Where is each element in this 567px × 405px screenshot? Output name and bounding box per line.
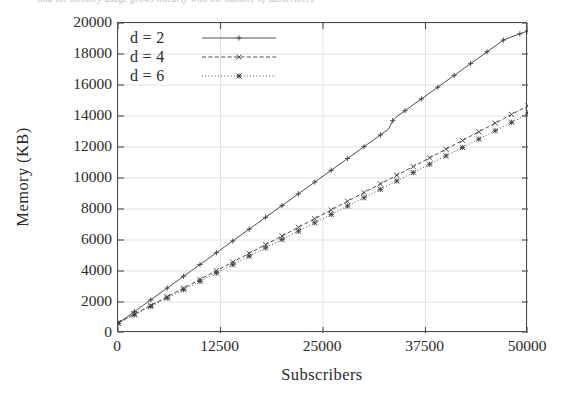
- x-tick-label: 50000: [508, 338, 547, 354]
- data-point-marker: [279, 237, 284, 242]
- y-tick-label: 20000: [0, 14, 112, 30]
- x-tick-label: 25000: [303, 338, 342, 354]
- data-point-marker: [525, 110, 528, 115]
- data-point-marker: [427, 155, 432, 160]
- data-point-marker: [525, 28, 528, 33]
- legend-line-sample: [200, 49, 278, 65]
- data-point-marker: [394, 178, 399, 183]
- data-point-marker: [181, 287, 186, 292]
- x-tick-label: 12500: [200, 338, 239, 354]
- legend-entry: d = 2: [130, 28, 280, 47]
- data-point-marker: [443, 153, 448, 158]
- y-tick-label: 6000: [0, 231, 112, 247]
- data-point-marker: [476, 129, 481, 134]
- memory-vs-subscribers-chart: and the memory usage grows linearly with…: [0, 0, 567, 405]
- legend-line-sample: [200, 30, 278, 46]
- data-point-marker: [493, 128, 498, 133]
- y-axis-tick-labels: 0200040006000800010000120001400016000180…: [0, 22, 112, 332]
- data-point-marker: [165, 296, 170, 301]
- data-point-marker: [411, 164, 416, 169]
- data-point-marker: [236, 35, 241, 40]
- data-point-marker: [132, 312, 137, 317]
- x-axis-tick-labels: 012500250003750050000: [117, 338, 527, 360]
- data-point-marker: [329, 207, 334, 212]
- y-tick-label: 10000: [0, 169, 112, 185]
- legend-entry: d = 6: [130, 66, 280, 85]
- data-point-marker: [411, 170, 416, 175]
- data-point-marker: [493, 121, 498, 126]
- data-point-marker: [361, 195, 366, 200]
- legend-line-sample: [200, 68, 278, 84]
- data-point-marker: [361, 190, 366, 195]
- data-point-marker: [345, 203, 350, 208]
- x-tick-label: 0: [113, 338, 121, 354]
- data-point-marker: [312, 220, 317, 225]
- data-point-marker: [427, 162, 432, 167]
- y-tick-label: 2000: [0, 293, 112, 309]
- data-point-marker: [236, 73, 241, 78]
- data-point-marker: [394, 173, 399, 178]
- data-point-marker: [509, 120, 514, 125]
- data-point-marker: [460, 138, 465, 143]
- y-tick-label: 12000: [0, 138, 112, 154]
- legend-entry-label: d = 6: [130, 67, 192, 85]
- y-tick-label: 18000: [0, 45, 112, 61]
- x-axis-title: Subscribers: [117, 365, 527, 385]
- x-tick-label: 37500: [405, 338, 444, 354]
- data-point-marker: [517, 31, 522, 36]
- data-point-marker: [345, 199, 350, 204]
- data-point-marker: [214, 270, 219, 275]
- data-point-marker: [148, 304, 153, 309]
- data-point-marker: [378, 187, 383, 192]
- y-tick-label: 4000: [0, 262, 112, 278]
- y-tick-label: 16000: [0, 76, 112, 92]
- legend-entry-label: d = 4: [130, 48, 192, 66]
- legend-entry: d = 4: [130, 47, 280, 66]
- data-point-marker: [263, 245, 268, 250]
- data-point-marker: [197, 279, 202, 284]
- data-point-marker: [476, 136, 481, 141]
- y-tick-label: 14000: [0, 107, 112, 123]
- data-point-marker: [378, 181, 383, 186]
- legend-entry-label: d = 2: [130, 29, 192, 47]
- data-point-marker: [247, 254, 252, 259]
- data-point-marker: [230, 262, 235, 267]
- data-point-marker: [460, 145, 465, 150]
- cut-off-caption-sliver: and the memory usage grows linearly with…: [38, 0, 518, 6]
- y-tick-label: 8000: [0, 200, 112, 216]
- data-point-marker: [296, 229, 301, 234]
- data-point-marker: [118, 320, 121, 325]
- data-point-marker: [329, 212, 334, 217]
- y-tick-label: 0: [0, 324, 112, 340]
- legend: d = 2d = 4d = 6: [130, 28, 280, 85]
